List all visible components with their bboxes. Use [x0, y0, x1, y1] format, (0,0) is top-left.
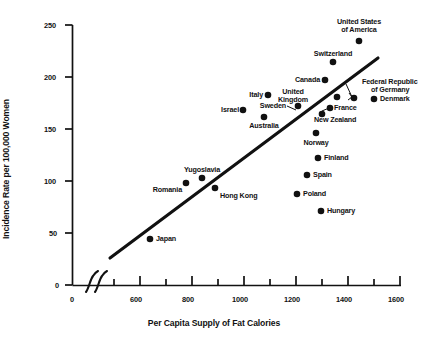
x-tick-1000: 1000	[232, 295, 248, 304]
x-tick-800: 800	[182, 295, 194, 304]
label-new-zealand: New Zealand	[314, 116, 356, 124]
label-united-states-of-america-line2: of America	[341, 26, 376, 34]
label-hungary: Hungary	[327, 207, 355, 215]
point-poland	[294, 191, 301, 198]
point-japan	[147, 236, 154, 243]
x-axis-title: Per Capita Supply of Fat Calories	[148, 318, 280, 328]
x-tick-600: 600	[130, 295, 142, 304]
scatter-plot-figure: 250 200 150 100 50 0 0 600 800 1000 1200…	[0, 0, 429, 339]
y-tick-100: 100	[44, 177, 56, 186]
label-yugoslavia: Yugoslavia	[184, 166, 220, 174]
point-netherlands	[334, 94, 341, 101]
label-switzerland: Switzerland	[314, 50, 352, 58]
label-france: France	[334, 104, 357, 112]
point-hungary	[318, 208, 325, 215]
point-israel	[240, 107, 247, 114]
x-tick-1600: 1600	[388, 295, 404, 304]
y-tick-200: 200	[44, 73, 56, 82]
label-australia: Australia	[249, 122, 278, 130]
label-japan: Japan	[156, 235, 176, 243]
y-tick-0: 0	[55, 281, 59, 290]
point-denmark	[371, 96, 378, 103]
label-hong-kong: Hong Kong	[220, 192, 257, 200]
point-hong-kong	[212, 185, 219, 192]
y-axis-title: Incidence Rate per 100,000 Women	[1, 99, 11, 239]
label-norway: Norway	[303, 139, 328, 147]
point-spain	[304, 172, 311, 179]
point-yugoslavia	[199, 175, 206, 182]
axis-break-icon	[86, 271, 107, 292]
point-france	[327, 105, 334, 112]
x-axis	[73, 276, 402, 286]
point-norway	[313, 130, 320, 137]
y-tick-150: 150	[44, 125, 56, 134]
point-canada	[322, 77, 329, 84]
label-denmark: Denmark	[380, 95, 410, 103]
x-tick-1200: 1200	[284, 295, 300, 304]
label-spain: Spain	[313, 171, 332, 179]
point-finland	[315, 155, 322, 162]
point-italy	[265, 92, 272, 99]
label-canada: Canada	[295, 76, 320, 84]
point-romania	[183, 180, 190, 187]
label-israel: Israel	[221, 106, 239, 114]
y-tick-250: 250	[44, 21, 56, 30]
point-united-states-of-america	[356, 38, 363, 45]
label-finland: Finland	[324, 154, 349, 162]
label-poland: Poland	[303, 190, 326, 198]
y-tick-50: 50	[49, 229, 57, 238]
label-italy: Italy	[249, 91, 263, 99]
x-tick-0: 0	[70, 295, 74, 304]
point-federal-republic-of-germany	[351, 95, 358, 102]
point-australia	[261, 114, 268, 121]
point-switzerland	[330, 59, 337, 66]
label-romania: Romania	[153, 186, 182, 194]
label-sweden: Sweden	[260, 102, 286, 110]
y-axis	[65, 25, 73, 285]
leader-sweden	[287, 106, 296, 110]
x-tick-1400: 1400	[336, 295, 352, 304]
